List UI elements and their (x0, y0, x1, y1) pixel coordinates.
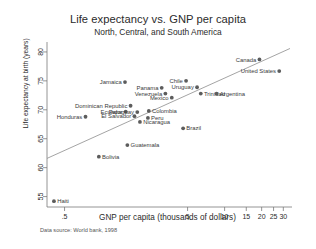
point-marker (97, 155, 101, 159)
data-points-group: HaitiHondurasBoliviaDominican RepublicEc… (52, 57, 281, 205)
y-tick-label: 65 (38, 135, 45, 143)
data-point-guatemala: Guatemala (125, 142, 160, 148)
point-label: Guatemala (131, 142, 161, 148)
point-marker (195, 85, 199, 89)
y-tick-label: 70 (38, 106, 45, 114)
scatter-plot: 556065707580 .551015202530 HaitiHonduras… (0, 0, 316, 249)
point-marker (52, 199, 56, 203)
point-marker (135, 110, 139, 114)
chart-container: Life expectancy vs. GNP per capita North… (0, 0, 316, 249)
point-label: Paraguay (109, 109, 134, 115)
point-label: Brazil (186, 125, 201, 131)
point-marker (84, 115, 88, 119)
data-point-chile: Chile (169, 78, 188, 84)
y-tick-label: 60 (38, 164, 45, 172)
y-tick-label: 55 (38, 193, 45, 201)
point-label: Uruguay (172, 84, 194, 90)
point-marker (147, 109, 151, 113)
point-label: Canada (236, 57, 257, 63)
point-marker (277, 69, 281, 73)
data-point-colombia: Colombia (147, 108, 178, 114)
data-point-united-states: United States (241, 68, 281, 74)
data-point-argentina: Argentina (215, 91, 246, 97)
point-marker (184, 79, 188, 83)
data-point-mexico: Mexico (150, 95, 174, 101)
x-tick-label: 10 (221, 213, 229, 220)
data-point-canada: Canada (236, 57, 262, 63)
data-point-nicaragua: Nicaragua (138, 119, 171, 125)
point-label: Mexico (150, 95, 169, 101)
point-label: Bolivia (102, 154, 120, 160)
point-label: Honduras (57, 114, 83, 120)
x-tick-label: 20 (258, 213, 266, 220)
point-marker (129, 104, 133, 108)
point-label: Argentina (220, 91, 246, 97)
point-label: Nicaragua (143, 119, 171, 125)
x-tick-label: 25 (270, 213, 278, 220)
y-tick-label: 75 (38, 77, 45, 85)
data-point-jamaica: Jamaica (100, 79, 127, 85)
point-marker (181, 126, 185, 130)
data-point-haiti: Haiti (52, 198, 69, 204)
point-marker (123, 80, 127, 84)
x-tick-label: 30 (279, 213, 287, 220)
data-point-bolivia: Bolivia (97, 154, 120, 160)
point-marker (160, 86, 164, 90)
point-marker (215, 92, 219, 96)
data-point-brazil: Brazil (181, 125, 201, 131)
point-marker (170, 96, 174, 100)
point-marker (258, 58, 262, 62)
point-label: Jamaica (100, 79, 123, 85)
point-label: Haiti (57, 198, 69, 204)
point-marker (199, 92, 203, 96)
point-marker (125, 143, 129, 147)
point-marker (138, 120, 142, 124)
y-tick-label: 80 (38, 48, 45, 56)
x-tick-group: .551015202530 (62, 207, 288, 220)
x-tick-label: .5 (62, 213, 68, 220)
point-label: Colombia (152, 108, 178, 114)
point-label: Chile (169, 78, 183, 84)
y-tick-group: 556065707580 (38, 48, 48, 201)
x-tick-label: 5 (186, 213, 190, 220)
x-tick-label: 15 (242, 213, 250, 220)
data-point-uruguay: Uruguay (172, 84, 199, 90)
point-label: United States (241, 68, 276, 74)
data-point-honduras: Honduras (57, 114, 88, 120)
